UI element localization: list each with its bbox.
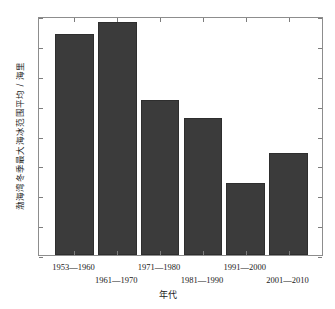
y-axis-tick-right [318, 197, 322, 198]
y-axis-tick-right [318, 18, 322, 19]
x-axis-tick-top [246, 18, 247, 22]
x-axis-tick-label: 1961—1970 [86, 275, 146, 285]
y-axis-tick [39, 78, 43, 79]
x-axis-tick-top [117, 18, 118, 22]
y-axis-tick-right [318, 48, 322, 49]
x-axis-tick [74, 251, 75, 255]
y-axis-tick-right [318, 167, 322, 168]
bar [55, 34, 94, 255]
y-axis-tick [39, 227, 43, 228]
x-axis-tick-label: 1971—1980 [129, 262, 189, 272]
x-axis-tick-top [289, 18, 290, 22]
y-axis-tick-right [318, 257, 322, 258]
y-axis-tick [39, 48, 43, 49]
bar [98, 22, 137, 255]
y-axis-tick [39, 257, 43, 258]
x-axis-tick-label: 1991—2000 [215, 262, 275, 272]
x-axis-tick [160, 251, 161, 255]
y-axis-tick [39, 18, 43, 19]
y-axis-tick-right [318, 138, 322, 139]
bar-chart-figure: 渤海湾冬季最大海冰范围平均 / 海里 年代 051015202530354019… [0, 0, 335, 309]
y-axis-tick [39, 108, 43, 109]
y-axis-tick [39, 197, 43, 198]
x-axis-title: 年代 [0, 288, 335, 301]
bar [269, 153, 308, 255]
x-axis-tick [203, 251, 204, 255]
x-axis-tick-label: 2001—2010 [258, 275, 318, 285]
plot-area [39, 18, 322, 255]
y-axis-tick-right [318, 108, 322, 109]
y-axis-tick [39, 138, 43, 139]
x-axis-tick-top [203, 18, 204, 22]
bar [184, 118, 223, 255]
bar [226, 183, 265, 255]
x-axis-tick-label: 1981—1990 [172, 275, 232, 285]
x-axis-tick [289, 251, 290, 255]
y-axis-tick [39, 167, 43, 168]
x-axis-tick-top [160, 18, 161, 22]
bar [141, 100, 180, 255]
x-axis-tick-label: 1953—1960 [43, 262, 103, 272]
x-axis-tick-top [74, 18, 75, 22]
y-axis-title: 渤海湾冬季最大海冰范围平均 / 海里 [13, 21, 25, 251]
x-axis-tick [246, 251, 247, 255]
x-axis-tick [117, 251, 118, 255]
y-axis-tick-right [318, 227, 322, 228]
plot-frame [38, 17, 323, 256]
y-axis-tick-right [318, 78, 322, 79]
